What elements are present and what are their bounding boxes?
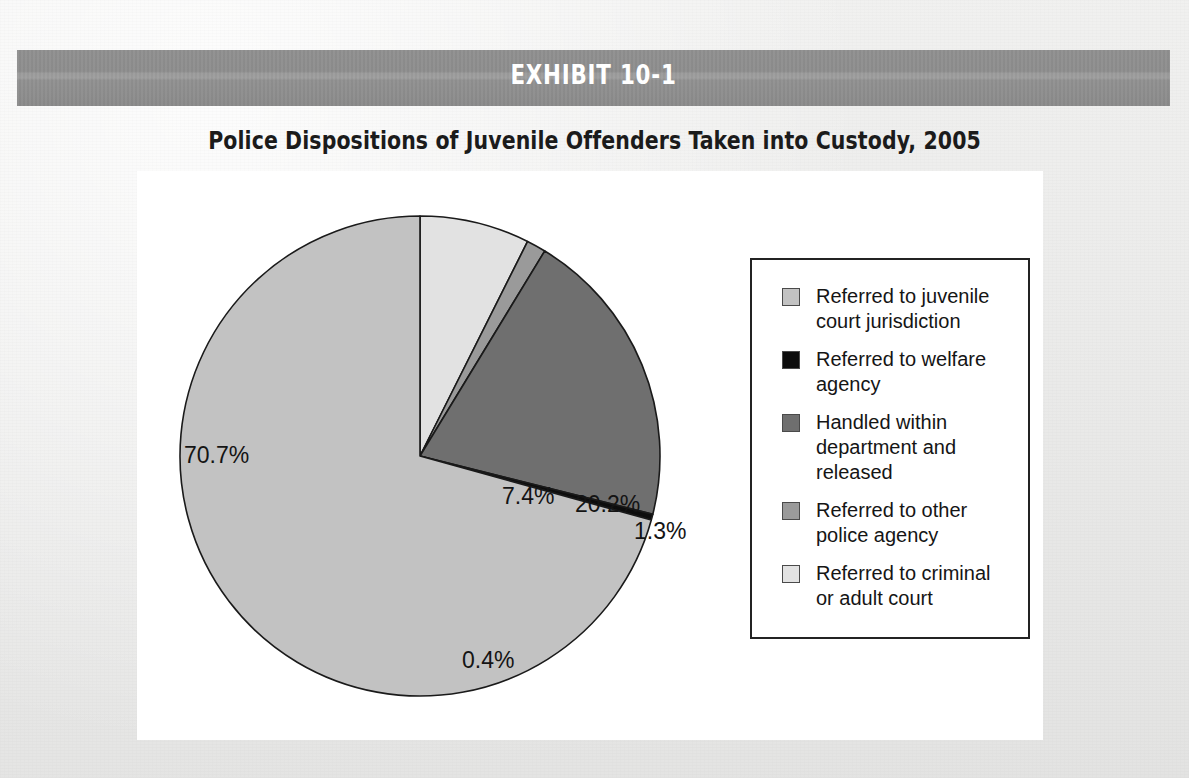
slice-label-1-3: 1.3% <box>634 518 686 544</box>
legend: Referred to juvenile court jurisdiction … <box>750 258 1030 639</box>
legend-item-label: Handled within department and released <box>816 410 956 485</box>
legend-item-criminal-adult-court[interactable]: Referred to criminal or adult court <box>782 561 1018 611</box>
legend-item-label: Referred to criminal or adult court <box>816 561 991 611</box>
slice-label-20-2: 20.2% <box>575 491 640 517</box>
slice-label-7-4: 7.4% <box>502 483 554 509</box>
legend-item-label: Referred to other police agency <box>816 498 967 548</box>
chart-panel: 7.4% 1.3% 20.2% 0.4% 70.7% Referred to j… <box>137 171 1043 740</box>
legend-swatch-icon <box>782 502 800 520</box>
legend-list: Referred to juvenile court jurisdiction … <box>782 284 1018 624</box>
legend-swatch-icon <box>782 288 800 306</box>
legend-swatch-icon <box>782 351 800 369</box>
exhibit-number-label: EXHIBIT 10-1 <box>86 59 1101 90</box>
pie-slice-group <box>180 216 660 696</box>
legend-swatch-icon <box>782 414 800 432</box>
legend-item-juvenile-court[interactable]: Referred to juvenile court jurisdiction <box>782 284 1018 334</box>
legend-swatch-icon <box>782 565 800 583</box>
slice-label-0-4: 0.4% <box>462 647 514 673</box>
legend-item-label: Referred to juvenile court jurisdiction <box>816 284 989 334</box>
bottom-cutoff-caption <box>612 766 1172 778</box>
exhibit-header-bar: EXHIBIT 10-1 <box>17 50 1170 106</box>
legend-item-handled-within-department[interactable]: Handled within department and released <box>782 410 1018 485</box>
slice-label-70-7: 70.7% <box>184 442 249 468</box>
legend-item-other-police-agency[interactable]: Referred to other police agency <box>782 498 1018 548</box>
legend-item-label: Referred to welfare agency <box>816 347 986 397</box>
legend-item-welfare-agency[interactable]: Referred to welfare agency <box>782 347 1018 397</box>
chart-title: Police Dispositions of Juvenile Offender… <box>42 126 1148 155</box>
